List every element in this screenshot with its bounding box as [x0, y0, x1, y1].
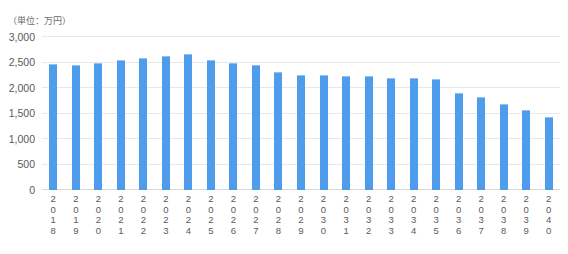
bar[interactable]	[184, 54, 192, 190]
bar-slot	[425, 37, 448, 190]
unit-caption: （単位：万円）	[8, 14, 71, 27]
bar[interactable]	[139, 58, 147, 190]
bar-slot	[470, 37, 493, 190]
plot-area: 05001,0001,5002,0002,5003,000	[42, 37, 560, 190]
bar[interactable]	[162, 56, 170, 190]
bar-slot	[380, 37, 403, 190]
bar-slot	[245, 37, 268, 190]
x-axis-tick-label: 2018	[46, 194, 60, 236]
x-axis-tick-label: 2024	[181, 194, 195, 236]
bar-slot	[42, 37, 65, 190]
x-axis-tick-label: 2021	[114, 194, 128, 236]
bar-chart: （単位：万円） 05001,0001,5002,0002,5003,000 20…	[0, 0, 568, 254]
bar-slot	[447, 37, 470, 190]
bar-slot	[290, 37, 313, 190]
x-axis-tick-label: 2035	[429, 194, 443, 236]
bar-slot	[335, 37, 358, 190]
x-axis-tick-label: 2023	[159, 194, 173, 236]
x-axis-tick-label: 2033	[384, 194, 398, 236]
x-axis-tick-label: 2040	[542, 194, 556, 236]
x-axis-tick-label: 2027	[249, 194, 263, 236]
x-axis-tick-label: 2020	[91, 194, 105, 236]
bar[interactable]	[545, 117, 553, 190]
bar[interactable]	[522, 110, 530, 190]
bar-slot	[132, 37, 155, 190]
bar[interactable]	[320, 75, 328, 190]
y-axis-tick-label: 0	[29, 184, 35, 195]
bar-slot	[200, 37, 223, 190]
bar-slot	[222, 37, 245, 190]
bar-slot	[65, 37, 88, 190]
bar-slot	[267, 37, 290, 190]
x-axis-tick-label: 2030	[317, 194, 331, 236]
x-axis-tick-label: 2019	[69, 194, 83, 236]
bar[interactable]	[455, 93, 463, 190]
bars	[42, 37, 560, 190]
x-axis-tick-label: 2032	[362, 194, 376, 236]
x-axis-labels: 2018201920202021202220232024202520262027…	[42, 194, 560, 252]
x-axis-tick-label: 2036	[452, 194, 466, 236]
bar[interactable]	[432, 79, 440, 190]
bar-slot	[110, 37, 133, 190]
bar[interactable]	[477, 97, 485, 190]
x-axis-tick-label: 2034	[407, 194, 421, 236]
x-axis-tick-label: 2028	[271, 194, 285, 236]
y-axis-tick-label: 2,500	[9, 57, 35, 68]
bar[interactable]	[252, 65, 260, 190]
bar[interactable]	[297, 75, 305, 190]
bar-slot	[537, 37, 560, 190]
bar-slot	[177, 37, 200, 190]
bar[interactable]	[72, 65, 80, 190]
bar-slot	[402, 37, 425, 190]
bar[interactable]	[207, 60, 215, 190]
y-axis-tick-label: 3,000	[9, 31, 35, 42]
x-axis-tick-label: 2022	[136, 194, 150, 236]
x-axis-tick-label: 2026	[226, 194, 240, 236]
bar[interactable]	[94, 63, 102, 190]
bar-slot	[155, 37, 178, 190]
bar-slot	[515, 37, 538, 190]
bar[interactable]	[500, 104, 508, 190]
x-axis-tick-label: 2025	[204, 194, 218, 236]
bar[interactable]	[229, 63, 237, 191]
x-axis-tick-label: 2031	[339, 194, 353, 236]
bar-slot	[87, 37, 110, 190]
bar[interactable]	[274, 72, 282, 190]
bar-slot	[357, 37, 380, 190]
y-axis-tick-label: 2,000	[9, 82, 35, 93]
x-axis-tick-label: 2039	[519, 194, 533, 236]
bar[interactable]	[410, 78, 418, 190]
x-axis-tick-label: 2029	[294, 194, 308, 236]
y-axis-tick-label: 1,500	[9, 108, 35, 119]
bar-slot	[492, 37, 515, 190]
bar[interactable]	[49, 64, 57, 190]
y-axis-tick-label: 500	[17, 159, 35, 170]
bar[interactable]	[117, 60, 125, 190]
bar[interactable]	[342, 76, 350, 190]
x-axis-tick-label: 2038	[497, 194, 511, 236]
bar[interactable]	[387, 78, 395, 190]
x-axis-tick-label: 2037	[474, 194, 488, 236]
bar[interactable]	[365, 76, 373, 190]
y-axis-tick-label: 1,000	[9, 133, 35, 144]
bar-slot	[312, 37, 335, 190]
